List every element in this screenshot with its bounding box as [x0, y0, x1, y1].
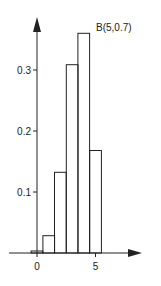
bar-1	[43, 236, 55, 253]
x-tick-label: 0	[34, 261, 40, 272]
y-ticks: 0.10.20.3	[17, 65, 37, 198]
x-ticks: 05	[34, 253, 99, 272]
x-axis-arrow-icon	[128, 249, 142, 257]
y-tick-label: 0.2	[17, 126, 31, 137]
bar-3	[66, 65, 78, 253]
y-tick-label: 0.3	[17, 65, 31, 76]
bars	[31, 33, 101, 253]
y-tick-label: 0.1	[17, 187, 31, 198]
y-axis-arrow-icon	[33, 17, 41, 32]
bar-2	[55, 172, 67, 253]
bar-4	[78, 33, 90, 253]
x-tick-label: 5	[93, 261, 99, 272]
distribution-label: B(5,0.7)	[96, 22, 132, 33]
binomial-histogram: 0.10.20.3 05 B(5,0.7)	[0, 0, 161, 286]
bar-5	[90, 151, 102, 254]
